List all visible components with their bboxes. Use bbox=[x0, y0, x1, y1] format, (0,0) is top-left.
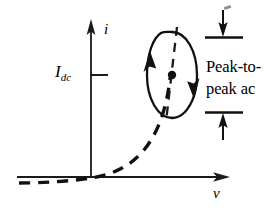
ellipse-arrowhead-up-icon bbox=[144, 51, 157, 72]
figure-vector-layer bbox=[0, 0, 272, 214]
vertical-axis-label: i bbox=[104, 22, 108, 37]
ellipse-bottom-arc bbox=[172, 112, 185, 118]
annotation-line-2: peak ac bbox=[206, 78, 272, 100]
diode-iv-figure: i v Idc Peak-to- peak ac bbox=[0, 0, 272, 214]
ac-swing-ellipse-group bbox=[144, 27, 200, 122]
operating-point-dot bbox=[168, 71, 176, 79]
ellipse-top-arc bbox=[161, 32, 172, 33]
horizontal-axis-label: v bbox=[213, 186, 220, 201]
idc-label: Idc bbox=[55, 63, 71, 83]
peak-to-peak-ac-annotation: Peak-to- peak ac bbox=[206, 56, 272, 100]
ellipse-arrowhead-down-icon bbox=[187, 78, 199, 99]
idc-label-subscript: dc bbox=[61, 71, 72, 83]
annotation-line-1: Peak-to- bbox=[206, 56, 272, 78]
axis-group bbox=[17, 19, 230, 182]
diode-iv-curve bbox=[19, 78, 170, 183]
